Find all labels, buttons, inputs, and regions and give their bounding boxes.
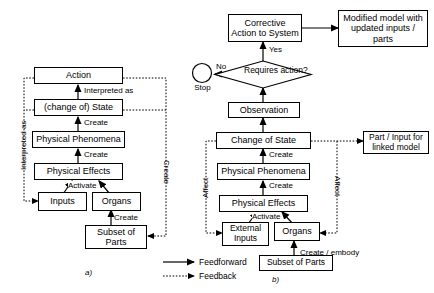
panel-a-label-interpreted-as-inline: Interpreted as <box>84 86 133 95</box>
panel-a-label-create-organs: Create <box>114 213 138 222</box>
panel-a-caption: a) <box>85 268 92 277</box>
panel-b-node-physical-phenomena: Physical Phenomena <box>217 163 310 180</box>
panel-b-label-affect-right: Affect <box>333 176 342 196</box>
panel-a-label-interpreted-as-vertical: Interpreted as <box>19 121 28 170</box>
panel-b-node-physical-effects: Physical Effects <box>219 195 308 212</box>
panel-a-node-change-of-state: (change of) State <box>34 99 123 116</box>
panel-a-label-create-vertical: Create <box>162 160 171 184</box>
legend-feedforward-label: Feedforward <box>199 257 247 267</box>
panel-b-caption: b) <box>272 275 279 284</box>
panel-b-node-part-input-linked-model: Part / Input for linked model <box>363 131 429 154</box>
panel-b-label-create-embody: Create / embody <box>300 248 359 257</box>
panel-b-node-modified-model: Modified model with updated inputs / par… <box>338 10 428 47</box>
panel-b-label-affect-left: Affect <box>201 178 210 198</box>
panel-a-label-create-phenomena: Create <box>84 150 108 159</box>
panel-a-label-create-state: Create <box>84 118 108 127</box>
panel-b-node-organs: Organs <box>274 222 320 241</box>
panel-b-node-subset-of-parts: Subset of Parts <box>259 255 333 271</box>
panel-b-label-activate: Activate <box>252 212 280 221</box>
panel-b-label-no: No <box>216 62 226 71</box>
panel-b-label-create-phenomena: Create <box>269 181 293 190</box>
panel-a-node-physical-effects: Physical Effects <box>34 163 123 180</box>
panel-b-node-corrective-action: Corrective Action to System <box>228 14 302 42</box>
panel-a-node-physical-phenomena: Physical Phenomena <box>32 131 125 148</box>
panel-b-node-requires-action-label: Requires action? <box>244 66 284 76</box>
panel-b-label-yes: Yes <box>269 45 282 54</box>
panel-b-node-change-of-state: Change of State <box>216 132 311 149</box>
panel-a-node-subset-of-parts: Subset of Parts <box>85 225 147 249</box>
panel-a-node-inputs: Inputs <box>38 192 87 211</box>
figure-two-panel-diagram: Action (change of) State Physical Phenom… <box>0 0 434 293</box>
panel-b-node-observation: Observation <box>228 102 300 118</box>
panel-a-node-organs: Organs <box>92 192 141 211</box>
panel-b-node-external-inputs: External Inputs <box>222 222 269 246</box>
legend-feedback-label: Feedback <box>199 271 236 281</box>
panel-b-label-create-state: Create <box>269 150 293 159</box>
panel-a-label-activate: Activate <box>68 181 96 190</box>
panel-a-node-action: Action <box>34 67 123 84</box>
panel-b-node-stop-label: Stop <box>190 83 215 92</box>
